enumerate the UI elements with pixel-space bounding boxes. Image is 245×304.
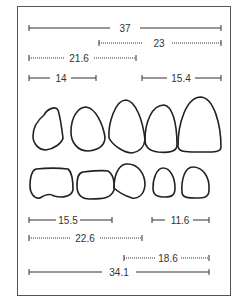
measure-37-label: 37: [119, 23, 131, 34]
tooth-measurement-diagram: 37 23 21.6 14 15.4 1: [0, 0, 245, 304]
measure-15-5-label: 15.5: [58, 215, 78, 226]
measure-18-6-label: 18.6: [158, 253, 178, 264]
measure-34-1-label: 34.1: [109, 267, 129, 278]
measure-11-6-label: 11.6: [171, 215, 190, 226]
measure-22-6-label: 22.6: [75, 233, 95, 244]
measure-23-label: 23: [153, 38, 165, 49]
measure-15-4-label: 15.4: [171, 73, 191, 84]
measure-21-6-label: 21.6: [69, 53, 89, 64]
measure-14-label: 14: [55, 73, 67, 84]
